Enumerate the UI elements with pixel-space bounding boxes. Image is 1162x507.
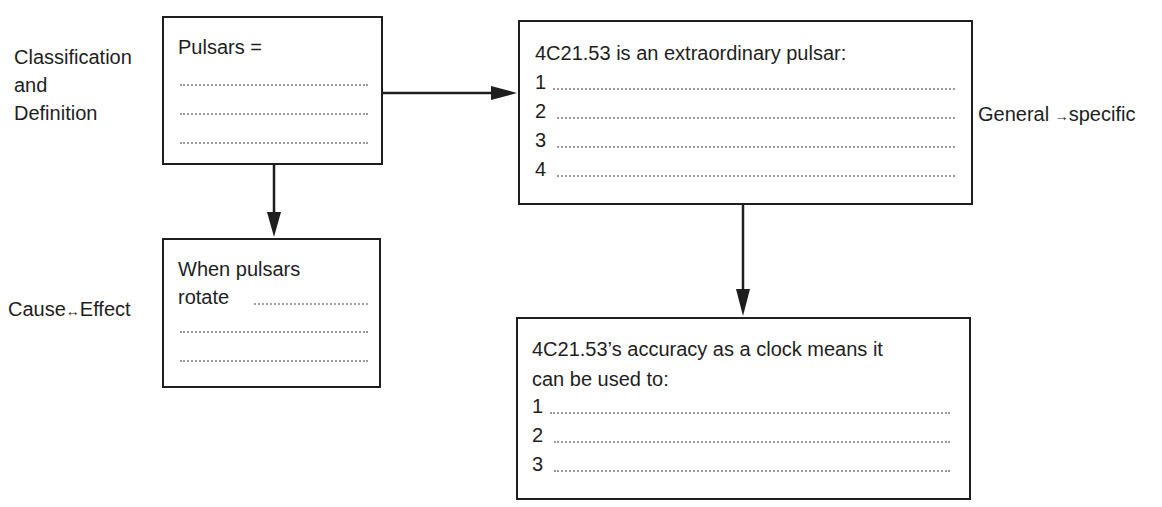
arrow-right-icon (383, 86, 517, 100)
arrow-down-icon (736, 205, 750, 316)
arrow-down-icon (267, 165, 281, 237)
connector-arrows (0, 0, 1162, 507)
